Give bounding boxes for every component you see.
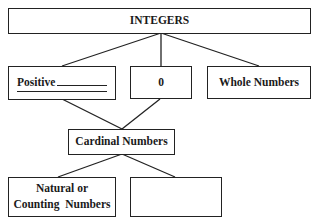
whole-numbers-label: Whole Numbers (219, 75, 299, 91)
positive-label: Positive (17, 76, 55, 88)
cardinal-numbers-box: Cardinal Numbers (68, 129, 175, 155)
integers-label: INTEGERS (130, 13, 189, 29)
natural-numbers-line1: Natural or (36, 181, 88, 197)
integers-box: INTEGERS (8, 8, 311, 34)
connector-integers-whole (161, 33, 259, 66)
connector-zero-cardinal (122, 99, 160, 129)
connector-positive-cardinal (62, 99, 122, 129)
natural-numbers-line2: Counting Numbers (13, 197, 110, 213)
positive-blank-1[interactable] (57, 75, 107, 86)
cardinal-numbers-label: Cardinal Numbers (75, 134, 167, 150)
zero-label: 0 (158, 75, 164, 91)
positive-box: Positive (8, 66, 116, 100)
connector-cardinal-blank (122, 154, 175, 177)
blank-answer-box[interactable] (130, 177, 222, 217)
positive-blank-2[interactable] (17, 91, 107, 92)
connector-cardinal-natural (58, 154, 122, 177)
zero-box: 0 (130, 66, 192, 99)
natural-numbers-box: Natural or Counting Numbers (8, 177, 116, 217)
whole-numbers-box: Whole Numbers (207, 66, 311, 99)
connector-integers-positive (62, 33, 161, 66)
